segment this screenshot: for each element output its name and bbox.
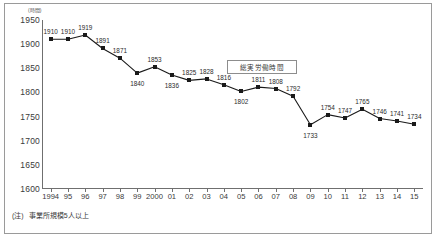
data-point-label: 1828 (199, 68, 213, 75)
x-tick-mark (397, 189, 398, 192)
data-point-marker (135, 71, 139, 75)
x-tick-label: 1994 (42, 192, 59, 201)
x-tick-label: 95 (64, 192, 72, 201)
x-tick-label: 12 (358, 192, 366, 201)
x-tick-label: 13 (375, 192, 383, 201)
data-point-marker (326, 113, 330, 117)
x-tick-label: 03 (202, 192, 210, 201)
x-tick-mark (155, 189, 156, 192)
data-point-label: 1808 (269, 78, 283, 85)
x-tick-mark (85, 189, 86, 192)
data-point-marker (49, 37, 53, 41)
data-point-label: 1746 (373, 108, 387, 115)
x-tick-mark (293, 189, 294, 192)
footnote: (注)事業所規模5人以上 (12, 210, 89, 220)
x-tick-mark (380, 189, 381, 192)
y-axis-labels: 16001650170017501800185019001950 (0, 0, 40, 239)
data-point-marker (291, 94, 295, 98)
x-tick-label: 09 (306, 192, 314, 201)
data-point-label: 1765 (355, 98, 369, 105)
data-point-label: 1871 (113, 47, 127, 54)
x-tick-label: 04 (220, 192, 228, 201)
data-point-label: 1733 (303, 132, 317, 139)
y-tick-label: 1600 (20, 184, 40, 194)
x-tick-mark (120, 189, 121, 192)
data-point-marker (360, 107, 364, 111)
x-tick-mark (414, 189, 415, 192)
x-tick-mark (189, 189, 190, 192)
data-point-marker (153, 65, 157, 69)
legend-label: 総実労働時間 (240, 62, 284, 72)
x-tick-mark (310, 189, 311, 192)
y-tick-label: 1850 (20, 63, 40, 73)
data-point-marker (187, 78, 191, 82)
x-tick-label: 98 (116, 192, 124, 201)
data-point-label: 1919 (78, 24, 92, 31)
legend: 総実労働時間 (227, 60, 297, 74)
data-point-marker (118, 56, 122, 60)
data-point-label: 1853 (147, 56, 161, 63)
data-point-label: 1910 (44, 28, 58, 35)
data-point-marker (66, 37, 70, 41)
x-tick-mark (328, 189, 329, 192)
data-point-label: 1840 (130, 80, 144, 87)
x-tick-mark (241, 189, 242, 192)
footnote-text: 事業所規模5人以上 (29, 212, 89, 219)
footnote-mark: (注) (12, 212, 24, 219)
x-tick-mark (68, 189, 69, 192)
x-tick-mark (258, 189, 259, 192)
x-tick-label: 2000 (146, 192, 163, 201)
x-tick-label: 15 (410, 192, 418, 201)
data-point-marker (239, 89, 243, 93)
chart-figure: (時間) 16001650170017501800185019001950 19… (0, 0, 437, 239)
data-point-label: 1811 (252, 76, 266, 83)
y-tick-label: 1800 (20, 87, 40, 97)
data-point-label: 1910 (61, 28, 75, 35)
data-point-marker (256, 85, 260, 89)
data-point-marker (378, 117, 382, 121)
x-tick-label: 97 (98, 192, 106, 201)
data-point-label: 1747 (338, 107, 352, 114)
x-tick-mark (207, 189, 208, 192)
x-tick-mark (362, 189, 363, 192)
data-point-marker (222, 83, 226, 87)
x-tick-mark (345, 189, 346, 192)
data-point-marker (205, 77, 209, 81)
x-tick-label: 02 (185, 192, 193, 201)
data-point-marker (395, 119, 399, 123)
data-point-label: 1836 (165, 82, 179, 89)
data-point-marker (83, 33, 87, 37)
data-point-marker (101, 46, 105, 50)
y-tick-label: 1900 (20, 39, 40, 49)
y-tick-label: 1950 (20, 15, 40, 25)
data-point-label: 1816 (217, 74, 231, 81)
y-tick-label: 1700 (20, 136, 40, 146)
x-tick-label: 05 (237, 192, 245, 201)
y-tick-label: 1650 (20, 160, 40, 170)
data-point-label: 1754 (321, 104, 335, 111)
data-point-label: 1825 (182, 69, 196, 76)
data-point-marker (308, 123, 312, 127)
data-point-label: 1734 (407, 113, 421, 120)
y-tick-label: 1750 (20, 112, 40, 122)
data-point-label: 1802 (234, 98, 248, 105)
x-tick-label: 99 (133, 192, 141, 201)
x-tick-mark (103, 189, 104, 192)
data-point-label: 1741 (390, 110, 404, 117)
x-tick-mark (51, 189, 52, 192)
data-point-marker (343, 116, 347, 120)
data-point-label: 1792 (286, 85, 300, 92)
x-tick-mark (276, 189, 277, 192)
x-tick-label: 96 (81, 192, 89, 201)
x-tick-label: 01 (168, 192, 176, 201)
x-tick-label: 11 (341, 192, 349, 201)
x-tick-label: 14 (393, 192, 401, 201)
x-tick-label: 08 (289, 192, 297, 201)
x-tick-label: 10 (324, 192, 332, 201)
x-tick-mark (224, 189, 225, 192)
x-tick-mark (137, 189, 138, 192)
data-point-label: 1891 (96, 37, 110, 44)
data-point-marker (170, 73, 174, 77)
x-tick-mark (172, 189, 173, 192)
x-tick-label: 07 (272, 192, 280, 201)
